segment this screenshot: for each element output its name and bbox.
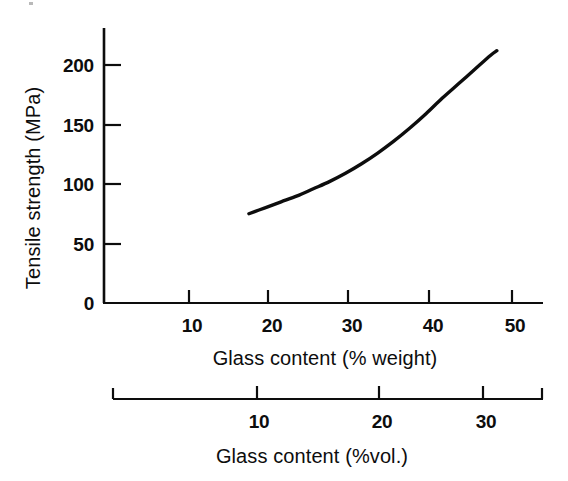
x-axis-title-secondary: Glass content (%vol.) [216,446,408,466]
secondary-x-tick-label-20: 20 [372,412,393,431]
y-tick-label-0: 0 [52,294,94,313]
x-axis-ticks [189,290,512,303]
y-tick-label-150: 150 [52,116,94,135]
figure-container: 200 150 100 50 0 10 20 30 40 50 10 20 30… [0,0,568,481]
y-tick-label-200: 200 [52,56,94,75]
x-tick-label-40: 40 [423,316,444,335]
y-tick-label-100: 100 [52,175,94,194]
x-tick-label-10: 10 [182,316,203,335]
data-curve-tensile-strength [249,51,497,214]
x-axis-title-primary: Glass content (% weight) [213,348,438,368]
x-tick-label-20: 20 [262,316,283,335]
y-axis-ticks [104,65,121,244]
y-tick-label-50: 50 [52,235,94,254]
secondary-x-tick-label-10: 10 [249,412,270,431]
secondary-axis [113,386,543,399]
secondary-x-tick-label-30: 30 [476,412,497,431]
x-tick-label-30: 30 [342,316,363,335]
x-tick-label-50: 50 [505,316,526,335]
y-axis-title: Tensile strength (MPa) [23,87,43,289]
